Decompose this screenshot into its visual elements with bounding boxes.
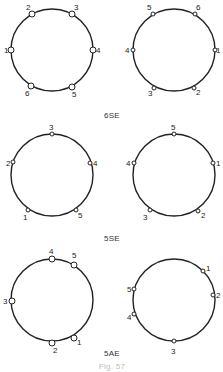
node-label: 2 [53,346,58,355]
node-label: 4 [93,159,98,168]
panel-5se: 34251514235SE [6,123,221,243]
node-marker [132,161,136,165]
node-marker [211,161,215,165]
node-label: 2 [216,291,221,300]
node-label: 6 [25,89,30,98]
node-label: 1 [77,338,82,347]
node-label: 2 [196,88,201,97]
node-marker [9,298,15,304]
node-marker [196,209,200,213]
node-marker [8,47,14,53]
panel-label: 5SE [104,234,120,243]
ring-circle [133,134,215,216]
node-label: 3 [49,123,54,132]
node-marker [71,262,77,268]
node-marker [26,208,30,212]
node-label: 2 [26,3,31,12]
node-marker [49,256,55,262]
panel-6se: 1234565641326SE [4,3,221,120]
panel-5ae: 45312125435AE [3,247,221,358]
ring: 51423 [126,123,221,222]
node-label: 5 [72,251,77,260]
node-label: 3 [3,297,8,306]
node-label: 1 [23,213,28,222]
node-label: 1 [4,46,9,55]
node-marker [148,208,152,212]
node-label: 4 [49,247,54,256]
node-label: 5 [127,285,132,294]
node-marker [50,132,54,136]
node-label: 4 [96,46,101,55]
node-label: 3 [171,347,176,356]
ring-circle [11,134,93,216]
figure-caption: Fig. 57 [99,362,126,371]
node-marker [132,287,136,291]
node-label: 3 [74,3,79,12]
node-label: 5 [72,90,77,99]
node-label: 2 [201,211,206,220]
node-label: 5 [171,123,176,132]
node-marker [132,312,136,316]
node-marker [11,160,15,164]
node-label: 3 [143,213,148,222]
ring-diagram-figure: 1234565641326SE34251514235SE45312125435A… [0,0,223,372]
node-marker [172,339,176,343]
panel-label: 5AE [104,349,120,358]
node-marker [172,132,176,136]
node-marker [193,12,197,16]
ring: 123456 [4,3,101,99]
node-label: 4 [127,313,132,322]
node-label: 4 [126,159,131,168]
node-label: 1 [206,264,211,273]
node-label: 2 [6,159,11,168]
node-label: 3 [148,89,153,98]
node-label: 1 [216,159,221,168]
node-marker [152,86,156,90]
node-marker [201,269,205,273]
node-marker [131,48,135,52]
ring: 34251 [6,123,98,222]
node-label: 6 [196,3,201,12]
ring: 564132 [125,3,221,98]
node-marker [88,161,92,165]
ring: 12543 [127,259,221,356]
node-label: 4 [125,46,130,55]
node-label: 1 [216,46,221,55]
ring-circle [11,9,93,91]
ring: 45312 [3,247,93,355]
ring-circle [11,259,93,341]
node-marker [151,12,155,16]
node-label: 5 [78,211,83,220]
panel-label: 6SE [104,111,120,120]
node-marker [211,293,215,297]
ring-circle [133,9,215,91]
node-label: 5 [147,3,152,12]
